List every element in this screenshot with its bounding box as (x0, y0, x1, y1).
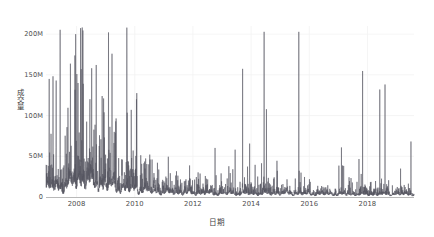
x-tick-label: 2014 (242, 200, 260, 208)
volume-series (46, 26, 414, 197)
x-tick-label: 2018 (359, 200, 377, 208)
y-tick-label: 50M (29, 152, 43, 160)
x-axis-title: 日期 (0, 216, 434, 227)
x-axis-line (46, 197, 414, 198)
y-tick-label: 150M (24, 71, 43, 79)
x-tick-label: 2008 (68, 200, 86, 208)
y-axis-tick-labels: 050M100M150M200M (0, 0, 43, 237)
x-tick-label: 2012 (184, 200, 202, 208)
chart-figure: 成交量 050M100M150M200M 2008201020122014201… (0, 0, 434, 237)
x-tick-label: 2016 (300, 200, 318, 208)
y-tick-label: 0 (39, 193, 43, 201)
x-tick-label: 2010 (126, 200, 144, 208)
y-tick-label: 200M (24, 30, 43, 38)
series-line (46, 28, 414, 197)
plot-area (46, 26, 414, 197)
y-tick-label: 100M (24, 112, 43, 120)
